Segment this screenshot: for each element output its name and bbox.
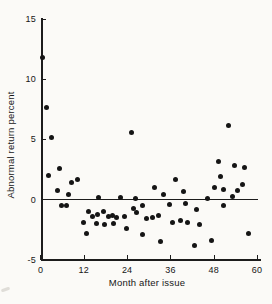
x-tick-label: 0	[31, 265, 51, 275]
data-point	[192, 243, 197, 248]
x-tick-mark	[127, 255, 128, 260]
data-point	[129, 130, 134, 135]
data-point	[64, 203, 69, 208]
data-point	[122, 214, 127, 219]
data-point	[178, 218, 183, 223]
data-point	[232, 163, 237, 168]
data-point	[55, 188, 60, 193]
y-tick-mark	[41, 259, 46, 260]
data-point	[230, 194, 235, 199]
data-point	[209, 238, 214, 243]
x-axis-title: Month after issue	[87, 277, 207, 288]
data-point	[242, 165, 247, 170]
data-point	[167, 202, 172, 207]
data-point	[158, 239, 163, 244]
data-point	[75, 177, 80, 182]
data-point	[221, 203, 226, 208]
data-point	[46, 173, 51, 178]
data-point	[49, 135, 54, 140]
x-tick-mark	[170, 255, 171, 260]
data-point	[235, 188, 240, 193]
data-point	[114, 215, 119, 220]
zero-line	[42, 199, 258, 200]
x-tick-label: 12	[74, 265, 94, 275]
y-tick-mark	[41, 139, 46, 140]
data-point	[205, 196, 210, 201]
x-tick-mark	[214, 255, 215, 260]
data-point	[156, 213, 161, 218]
data-point	[226, 123, 231, 128]
data-point	[69, 180, 74, 185]
data-point	[101, 209, 106, 214]
data-point	[216, 159, 221, 164]
data-point	[111, 221, 116, 226]
data-point	[134, 210, 139, 215]
data-point	[181, 189, 186, 194]
y-tick-label: 10	[12, 74, 36, 84]
x-tick-label: 24	[117, 265, 137, 275]
x-tick-mark	[84, 255, 85, 260]
scatter-figure: Abnormal return percent Month after issu…	[0, 0, 272, 304]
x-tick-mark	[257, 255, 258, 260]
y-tick-mark	[41, 79, 46, 80]
data-point	[194, 207, 199, 212]
data-point	[144, 216, 149, 221]
y-tick-label: 0	[12, 195, 36, 205]
data-point	[124, 226, 129, 231]
data-point	[66, 192, 71, 197]
data-point	[185, 220, 190, 225]
x-tick-label: 60	[247, 265, 267, 275]
data-point	[197, 222, 202, 227]
data-point	[212, 185, 217, 190]
data-point	[170, 220, 175, 225]
data-point	[152, 185, 157, 190]
y-tick-mark	[41, 19, 46, 20]
y-tick-label: 15	[12, 14, 36, 24]
data-point	[173, 177, 178, 182]
data-point	[94, 221, 99, 226]
data-point	[140, 203, 145, 208]
data-point	[240, 182, 245, 187]
data-point	[102, 222, 107, 227]
x-tick-label: 48	[204, 265, 224, 275]
scan-artifact	[1, 287, 10, 293]
y-tick-label: 5	[12, 134, 36, 144]
data-point	[150, 215, 155, 220]
data-point	[81, 220, 86, 225]
data-point	[96, 195, 101, 200]
x-tick-mark	[40, 255, 41, 260]
data-point	[246, 231, 251, 236]
x-axis-line	[41, 259, 261, 261]
data-point	[161, 192, 166, 197]
data-point	[57, 166, 62, 171]
data-point	[95, 212, 100, 217]
data-point	[44, 105, 49, 110]
data-point	[218, 174, 223, 179]
data-point	[40, 55, 45, 60]
x-tick-label: 36	[160, 265, 180, 275]
data-point	[221, 187, 226, 192]
data-point	[183, 201, 188, 206]
y-tick-label: -5	[12, 255, 36, 265]
data-point	[84, 231, 89, 236]
data-point	[140, 232, 145, 237]
y-tick-mark	[41, 199, 46, 200]
